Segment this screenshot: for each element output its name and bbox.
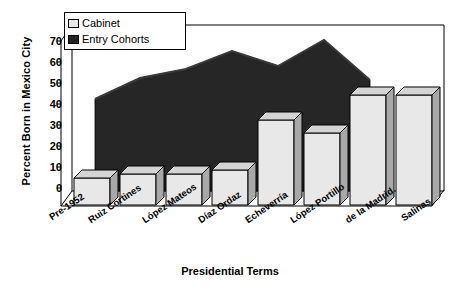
legend-item-cabinet: Cabinet — [68, 15, 182, 31]
legend-item-entry-cohorts: Entry Cohorts — [68, 31, 182, 47]
chart-legend: Cabinet Entry Cohorts — [64, 12, 186, 50]
entry-cohorts-swatch-icon — [68, 35, 79, 44]
chart-figure: Percent Born in Mexico City 70 60 50 40 … — [0, 0, 460, 292]
legend-label-cabinet: Cabinet — [82, 18, 120, 29]
y-axis-ticks — [57, 41, 61, 188]
bar-salinas — [396, 87, 440, 205]
cabinet-swatch-icon — [68, 19, 79, 28]
x-axis-title: Presidential Terms — [0, 265, 460, 277]
legend-label-entry-cohorts: Entry Cohorts — [82, 34, 149, 45]
